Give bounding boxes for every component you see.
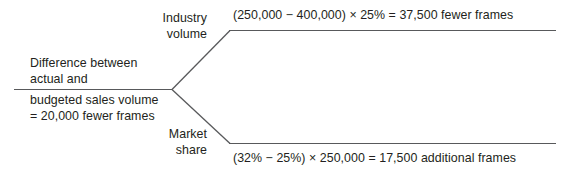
variance-breakdown-diagram: Difference between actual and budgeted s… [0, 0, 568, 177]
formula-industry-volume: (250,000 − 400,000) × 25% = 37,500 fewer… [233, 8, 513, 24]
trunk-label-below: budgeted sales volume = 20,000 fewer fra… [30, 93, 158, 124]
trunk-label-above-line-1: Difference between [30, 56, 137, 70]
branch-label-market-line-1: Market [169, 127, 207, 141]
formula-market-share: (32% − 25%) × 250,000 = 17,500 additiona… [233, 151, 516, 167]
branch-label-industry-volume: Industry volume [100, 11, 207, 42]
branch-label-industry-line-1: Industry [163, 11, 207, 25]
branch-label-market-share: Market share [100, 127, 207, 158]
branch-label-industry-line-2: volume [100, 27, 207, 43]
trunk-label-above: Difference between actual and [30, 56, 137, 87]
branch-label-market-line-2: share [100, 143, 207, 159]
trunk-label-above-line-2: actual and [30, 72, 137, 88]
trunk-label-below-line-1: budgeted sales volume [30, 93, 158, 107]
trunk-label-below-line-2: = 20,000 fewer frames [30, 109, 158, 125]
